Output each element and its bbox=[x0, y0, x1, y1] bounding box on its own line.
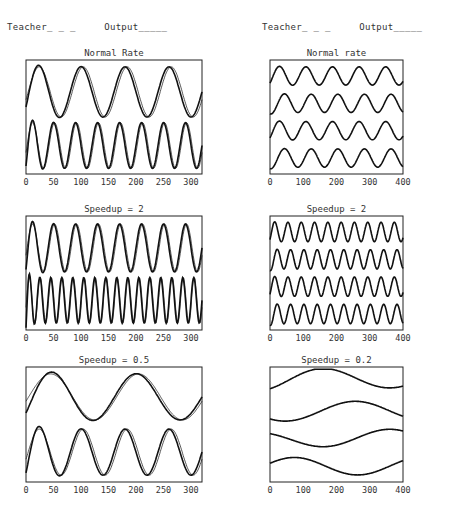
x-tick-label: 300 bbox=[362, 177, 377, 187]
x-tick-label: 200 bbox=[329, 177, 344, 187]
chart-title: Speedup = 0.5 bbox=[79, 355, 149, 365]
chart-panel-6: Speedup = 0.20100200300400 bbox=[267, 355, 410, 495]
x-tick-label: 0 bbox=[267, 333, 272, 343]
x-tick-label: 150 bbox=[101, 485, 116, 495]
trace-series-3 bbox=[270, 277, 403, 297]
x-tick-label: 50 bbox=[48, 177, 58, 187]
chart-title: Speedup = 2 bbox=[307, 204, 367, 214]
x-tick-label: 100 bbox=[296, 485, 311, 495]
x-tick-label: 300 bbox=[183, 485, 198, 495]
x-tick-label: 50 bbox=[48, 333, 58, 343]
x-tick-label: 200 bbox=[128, 177, 143, 187]
x-tick-label: 300 bbox=[183, 177, 198, 187]
x-tick-label: 0 bbox=[23, 177, 28, 187]
x-tick-label: 300 bbox=[362, 485, 377, 495]
trace-output-1 bbox=[26, 372, 202, 420]
trace-series-2 bbox=[270, 249, 403, 270]
x-tick-label: 200 bbox=[128, 485, 143, 495]
chart-title: Speedup = 2 bbox=[84, 204, 144, 214]
x-tick-label: 100 bbox=[73, 485, 88, 495]
trace-series-2 bbox=[270, 401, 403, 421]
trace-series-3 bbox=[270, 121, 403, 140]
x-tick-label: 150 bbox=[101, 333, 116, 343]
chart-panel-3: Speedup = 2050100150200250300 bbox=[23, 204, 202, 343]
chart-panel-2: Normal rate0100200300400 bbox=[267, 48, 410, 187]
x-tick-label: 0 bbox=[23, 485, 28, 495]
x-tick-label: 400 bbox=[395, 485, 410, 495]
x-tick-label: 100 bbox=[73, 177, 88, 187]
x-tick-label: 300 bbox=[362, 333, 377, 343]
x-tick-label: 100 bbox=[296, 177, 311, 187]
x-tick-label: 250 bbox=[156, 177, 171, 187]
trace-series-4 bbox=[270, 458, 403, 476]
x-tick-label: 250 bbox=[156, 485, 171, 495]
chart-panel-1: Normal Rate050100150200250300 bbox=[23, 48, 202, 187]
chart-title: Normal rate bbox=[307, 48, 367, 58]
trace-series-1 bbox=[270, 66, 403, 85]
x-tick-label: 0 bbox=[267, 177, 272, 187]
x-tick-label: 150 bbox=[101, 177, 116, 187]
trace-series-2 bbox=[270, 94, 403, 114]
chart-title: Normal Rate bbox=[84, 48, 144, 58]
x-tick-label: 50 bbox=[48, 485, 58, 495]
x-tick-label: 200 bbox=[128, 333, 143, 343]
trace-series-1 bbox=[270, 222, 403, 242]
trace-output-2 bbox=[26, 274, 202, 328]
x-tick-label: 300 bbox=[183, 333, 198, 343]
chart-panel-5: Speedup = 0.5050100150200250300 bbox=[23, 355, 202, 495]
x-tick-label: 100 bbox=[73, 333, 88, 343]
trace-series-1 bbox=[270, 369, 403, 388]
x-tick-label: 100 bbox=[296, 333, 311, 343]
x-tick-label: 200 bbox=[329, 333, 344, 343]
chart-panel-4: Speedup = 20100200300400 bbox=[267, 204, 410, 343]
chart-title: Speedup = 0.2 bbox=[301, 355, 371, 365]
x-tick-label: 250 bbox=[156, 333, 171, 343]
plot-frame bbox=[270, 216, 403, 330]
trace-series-3 bbox=[270, 429, 403, 446]
x-tick-label: 200 bbox=[329, 485, 344, 495]
x-tick-label: 0 bbox=[267, 485, 272, 495]
x-tick-label: 0 bbox=[23, 333, 28, 343]
x-tick-label: 400 bbox=[395, 177, 410, 187]
trace-series-4 bbox=[270, 304, 403, 325]
x-tick-label: 400 bbox=[395, 333, 410, 343]
charts-canvas: Normal Rate050100150200250300Normal rate… bbox=[0, 0, 476, 520]
trace-series-4 bbox=[270, 149, 403, 169]
trace-output-1 bbox=[26, 65, 202, 117]
plot-frame bbox=[270, 367, 403, 482]
